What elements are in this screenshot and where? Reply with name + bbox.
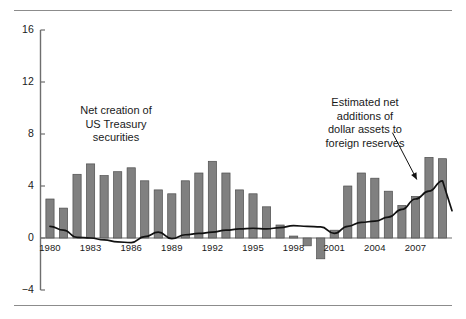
bar [249,194,257,238]
bar [73,174,81,238]
bar [141,181,149,238]
x-axis-tick-label: 1983 [73,242,109,253]
y-axis-tick-label: 0 [2,231,34,243]
bar [384,191,392,238]
bar [127,168,135,238]
annotation-treasury-securities: Net creation of US Treasury securities [58,104,174,145]
x-axis-tick-label: 2004 [357,242,393,253]
y-axis-tick-label: 16 [2,23,34,35]
bar [114,172,122,238]
y-axis-tick-label: −4 [2,283,34,295]
chart-svg [0,0,466,319]
bar [195,173,203,238]
bar [438,159,446,238]
bar [262,207,270,238]
bar [46,199,54,238]
chart-plot-area [0,0,466,319]
x-axis-tick-label: 1986 [113,242,149,253]
x-axis-tick-label: 2001 [316,242,352,253]
bar [411,196,419,238]
chart-figure: Net creation of US Treasury securities E… [0,0,466,319]
annotation-foreign-reserves: Estimated net additions of dollar assets… [303,96,427,150]
bar [222,173,230,238]
x-axis-tick-label: 1989 [154,242,190,253]
x-axis-tick-label: 1980 [32,242,68,253]
x-axis-tick-label: 1992 [194,242,230,253]
bar [100,176,108,238]
x-axis-tick-label: 1998 [276,242,312,253]
bar [86,164,94,238]
y-axis-tick-label: 12 [2,75,34,87]
bar [59,208,67,238]
y-axis-tick-label: 8 [2,127,34,139]
bar [181,181,189,238]
bar [168,194,176,238]
bar [154,190,162,238]
bar [208,161,216,238]
x-axis-tick-label: 2007 [397,242,433,253]
y-axis-tick-label: 4 [2,179,34,191]
bar [235,190,243,238]
bar [357,173,365,238]
bar [425,157,433,238]
bar [290,236,298,238]
bar [371,178,379,238]
bar [344,186,352,238]
x-axis-tick-label: 1995 [235,242,271,253]
